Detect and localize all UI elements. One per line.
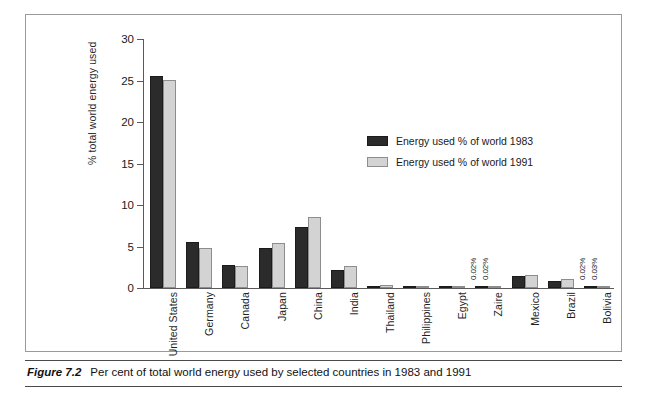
bar: [272, 243, 285, 288]
bar: [439, 286, 452, 288]
bar-value-annotation: 0.02%: [469, 258, 478, 280]
bar: [199, 248, 212, 288]
bar: [403, 286, 416, 288]
x-axis-label: Thailand: [384, 292, 396, 333]
x-axis-label: Mexico: [529, 292, 541, 326]
x-axis-label: China: [312, 292, 324, 320]
bar: [380, 285, 393, 288]
bar: [525, 275, 538, 288]
bar-group: [186, 39, 212, 288]
legend-swatch-1983-icon: [367, 136, 388, 146]
figure-caption: Figure 7.2Per cent of total world energy…: [27, 366, 622, 378]
figure-number: Figure 7.2: [27, 366, 81, 378]
bar: [561, 279, 574, 288]
y-axis-tick-mark: [137, 81, 144, 82]
figure-frame: % total world energy used 051015202530 0…: [25, 14, 622, 352]
bar: [416, 286, 429, 288]
x-axis-label: Canada: [239, 292, 251, 329]
y-axis-title: % total world energy used: [86, 42, 98, 165]
bar: [548, 281, 561, 288]
x-axis-labels: United StatesGermanyCanadaJapanChinaIndi…: [144, 292, 614, 352]
bar-group: [150, 39, 176, 288]
bar: [222, 265, 235, 288]
y-axis-tick-label: 0: [128, 282, 134, 294]
y-axis-tick-label: 30: [121, 33, 134, 45]
legend-label-1991: Energy used % of world 1991: [396, 156, 533, 168]
bar-group: [548, 39, 574, 288]
bar: [367, 286, 380, 288]
x-axis-label: Japan: [276, 292, 288, 321]
x-axis-label: Bolivia: [601, 292, 613, 324]
figure-page: % total world energy used 051015202530 0…: [0, 0, 647, 401]
y-axis-tick-label: 10: [121, 199, 134, 211]
bar: [295, 227, 308, 288]
y-axis-tick-mark: [137, 247, 144, 248]
y-axis-tick-mark: [137, 288, 144, 289]
bar-group: [331, 39, 357, 288]
x-axis-label: Zaire: [492, 292, 504, 316]
bar: [512, 276, 525, 288]
bar: [308, 217, 321, 288]
x-axis-label: Brazil: [565, 292, 577, 319]
bar: [597, 286, 610, 288]
bar: [488, 286, 501, 288]
legend-item: Energy used % of world 1983: [367, 132, 533, 149]
legend-label-1983: Energy used % of world 1983: [396, 135, 533, 147]
chart-legend: Energy used % of world 1983 Energy used …: [367, 132, 533, 174]
bar-group: 0.02%0.03%: [584, 39, 610, 288]
y-axis-tick-label: 15: [121, 158, 134, 170]
legend-swatch-1991-icon: [367, 157, 388, 167]
bar: [163, 80, 176, 288]
y-axis-tick-label: 20: [121, 116, 134, 128]
bar-group: [295, 39, 321, 288]
legend-item: Energy used % of world 1991: [367, 153, 533, 170]
bar: [344, 266, 357, 288]
y-axis-tick-mark: [137, 122, 144, 123]
bar: [452, 286, 465, 288]
bar: [235, 266, 248, 288]
y-axis-tick-label: 25: [121, 75, 134, 87]
y-axis-tick-label: 5: [128, 241, 134, 253]
x-axis-label: India: [348, 292, 360, 315]
bar: [186, 242, 199, 288]
caption-rule-top: [25, 360, 622, 361]
bar: [259, 248, 272, 288]
y-axis-tick-mark: [137, 164, 144, 165]
x-axis-label: Philippines: [420, 292, 432, 344]
bar-group: [222, 39, 248, 288]
figure-caption-text: Per cent of total world energy used by s…: [90, 366, 471, 378]
x-axis-label: Germany: [203, 292, 215, 336]
bar: [331, 270, 344, 288]
bar-value-annotation: 0.02%: [481, 258, 490, 280]
bar-value-annotation: 0.02%: [578, 258, 587, 280]
bar: [584, 286, 597, 288]
bar-group: [259, 39, 285, 288]
caption-rule-bottom: [25, 386, 622, 387]
bar: [150, 76, 163, 288]
y-axis-tick-mark: [137, 205, 144, 206]
y-axis-tick-mark: [137, 39, 144, 40]
bar: [475, 286, 488, 288]
x-axis-label: United States: [167, 292, 179, 356]
bar-value-annotation: 0.03%: [590, 258, 599, 280]
x-axis-label: Egypt: [456, 292, 468, 319]
